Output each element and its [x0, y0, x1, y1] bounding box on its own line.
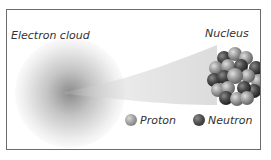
electron-cloud-label: Electron cloud: [11, 29, 90, 42]
proton-legend-label: Proton: [140, 114, 176, 127]
nucleus-icon: [204, 44, 261, 108]
neutron-legend-label: Neutron: [208, 114, 253, 127]
neutron-legend-icon: [193, 114, 205, 126]
nucleus-label: Nucleus: [205, 27, 249, 40]
diagram-frame: Electron cloud Nucleus Proton: [6, 9, 261, 150]
proton-legend-icon: [125, 114, 137, 126]
